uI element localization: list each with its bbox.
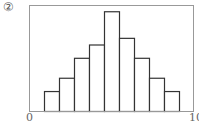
- histogram-bar: [75, 58, 90, 111]
- histogram-bar: [45, 92, 60, 112]
- x-tick-label-100: 100: [189, 111, 199, 124]
- x-tick-label-0: 0: [26, 111, 33, 124]
- histogram-bars: [45, 12, 180, 112]
- histogram-bar: [165, 92, 180, 112]
- histogram-bar: [120, 38, 135, 111]
- histogram-bar: [135, 58, 150, 111]
- histogram-bar: [60, 78, 75, 111]
- histogram-plot: [0, 0, 199, 124]
- histogram-bar: [150, 78, 165, 111]
- histogram-bar: [90, 45, 105, 112]
- histogram-bar: [105, 12, 120, 112]
